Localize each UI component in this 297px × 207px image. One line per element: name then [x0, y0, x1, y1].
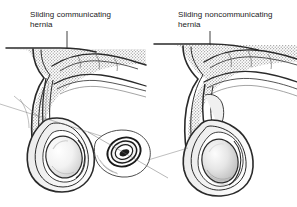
label-sliding-communicating-line2: hernia — [30, 20, 53, 29]
label-sliding-noncommunicating-line2: hernia — [178, 20, 201, 29]
label-sliding-communicating-line1: Sliding communicating — [30, 10, 111, 19]
hernia-comparison-figure: Sliding communicating hernia — [0, 0, 297, 207]
label-sliding-noncommunicating-line1: Sliding noncommunicating — [178, 10, 273, 19]
